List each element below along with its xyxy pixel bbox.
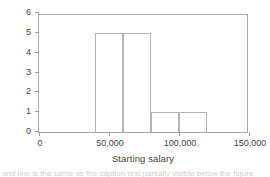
y-axis-tick-label: 3	[26, 67, 31, 78]
histogram-bar	[179, 112, 207, 132]
histogram-figure: Frequency 0123456050,000100,000150,000 S…	[0, 0, 270, 177]
histogram-bar	[123, 33, 151, 132]
y-axis-tick-label: 6	[26, 7, 31, 18]
y-axis-tick: 4	[35, 52, 39, 53]
x-axis-tick-label: 150,000	[234, 138, 267, 149]
y-axis-tick: 2	[35, 91, 39, 92]
x-axis-tick-label: 0	[37, 138, 42, 149]
x-axis-tick: 100,000	[179, 132, 180, 136]
histogram-bar	[95, 33, 123, 132]
y-axis-tick: 6	[35, 12, 39, 13]
plot-area: 0123456050,000100,000150,000	[38, 14, 248, 133]
y-axis-tick: 5	[35, 32, 39, 33]
y-axis-tick-label: 2	[26, 86, 31, 97]
histogram-bar	[151, 112, 179, 132]
figure-caption-partial: and line is the same as the caption text…	[0, 169, 270, 177]
x-axis-tick-label: 50,000	[96, 138, 124, 149]
y-axis-tick-label: 1	[26, 106, 31, 117]
x-axis-tick: 150,000	[249, 132, 250, 136]
x-axis-tick: 0	[39, 132, 40, 136]
x-axis-tick-label: 100,000	[164, 138, 197, 149]
y-axis-tick-label: 5	[26, 27, 31, 38]
y-axis-tick-label: 4	[26, 47, 31, 58]
x-axis-tick: 50,000	[109, 132, 110, 136]
plot-inner: 0123456050,000100,000150,000	[39, 15, 247, 132]
y-axis-tick: 1	[35, 111, 39, 112]
y-axis-tick-label: 0	[26, 126, 31, 137]
x-axis-title: Starting salary	[38, 153, 248, 164]
y-axis-tick: 3	[35, 72, 39, 73]
